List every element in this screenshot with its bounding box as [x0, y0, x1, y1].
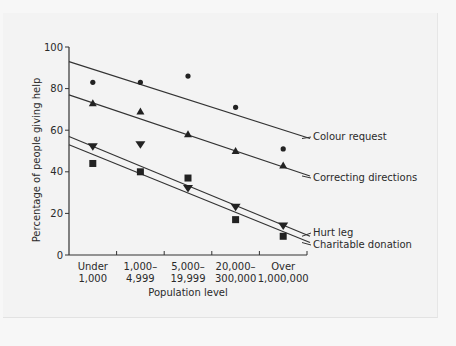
- trend-lines: [69, 62, 311, 245]
- y-tick-label: 60: [50, 125, 63, 136]
- triangle-down-marker: [88, 143, 98, 151]
- x-tick-label: 300,000: [215, 273, 256, 284]
- square-marker: [232, 216, 239, 223]
- series-label: Colour request: [313, 131, 387, 142]
- square-marker: [280, 233, 287, 240]
- x-tick-label: 5,000–: [171, 261, 205, 272]
- x-tick-label: Under: [78, 261, 109, 272]
- series-label: Correcting directions: [313, 172, 417, 183]
- x-tick-label: 4,999: [126, 273, 155, 284]
- square-marker: [137, 168, 144, 175]
- x-axis-label: Population level: [148, 287, 228, 298]
- circle-marker: [185, 74, 190, 79]
- x-tick-label: Over: [271, 261, 296, 272]
- y-tick-label: 0: [57, 250, 63, 261]
- y-axis-label: Percentage of people giving help: [31, 78, 42, 243]
- circle-marker: [138, 80, 143, 85]
- circle-marker: [281, 146, 286, 151]
- triangle-up-marker: [136, 107, 144, 114]
- circle-marker: [90, 80, 95, 85]
- x-tick-label: 1,000,000: [258, 273, 309, 284]
- series-label: Charitable donation: [313, 239, 412, 250]
- square-marker: [185, 175, 192, 182]
- triangle-down-marker: [135, 141, 145, 149]
- x-tick-label: 1,000–: [124, 261, 158, 272]
- x-tick-label: 20,000–: [216, 261, 256, 272]
- trend-line: [69, 145, 310, 243]
- y-tick-label: 40: [50, 166, 63, 177]
- y-tick-label: 100: [44, 42, 63, 53]
- y-tick-label: 80: [50, 83, 63, 94]
- chart: 020406080100Under1,0001,000–4,9995,000–1…: [0, 0, 456, 346]
- circle-marker: [233, 105, 238, 110]
- x-tick-label: 1,000: [78, 273, 107, 284]
- square-marker: [89, 160, 96, 167]
- x-tick-label: 19,999: [171, 273, 206, 284]
- triangle-up-marker: [89, 99, 97, 106]
- trend-line: [69, 62, 310, 139]
- y-tick-label: 20: [50, 208, 63, 219]
- series-labels: Colour requestCorrecting directionsHurt …: [313, 131, 417, 250]
- series-label: Hurt leg: [313, 227, 353, 238]
- triangle-up-marker: [279, 162, 287, 169]
